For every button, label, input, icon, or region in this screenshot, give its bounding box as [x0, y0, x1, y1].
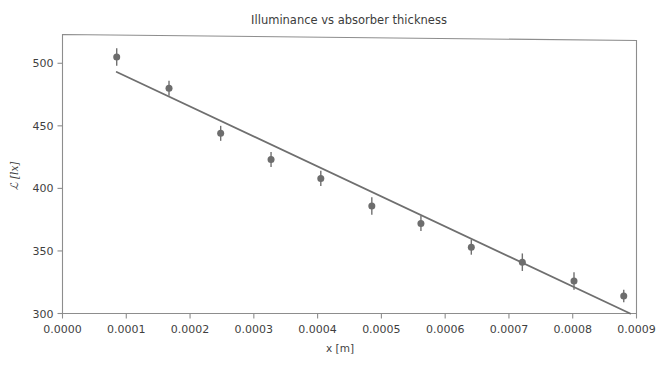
y-tick-label: 450 [33, 120, 54, 133]
data-point-marker [317, 175, 324, 182]
illuminance-scatter-chart: Illuminance vs absorber thickness 300350… [0, 0, 658, 371]
data-point-marker [166, 85, 173, 92]
x-tick-label: 0.0004 [298, 323, 337, 336]
x-tick-label: 0.0005 [362, 323, 401, 336]
figure-background [0, 0, 658, 371]
x-tick-label: 0.0008 [553, 323, 592, 336]
x-tick-label: 0.0003 [235, 323, 274, 336]
data-point-marker [268, 156, 275, 163]
chart-title: Illuminance vs absorber thickness [251, 13, 447, 27]
y-axis-label: ℒ [lx] [8, 161, 20, 191]
y-tick-label: 350 [33, 245, 54, 258]
data-point-marker [217, 130, 224, 137]
data-point-marker [570, 277, 577, 284]
data-point-marker [468, 244, 475, 251]
x-tick-label: 0.0002 [171, 323, 210, 336]
y-tick-label: 400 [33, 182, 54, 195]
x-axis-label: x [m] [326, 342, 354, 354]
data-point-marker [417, 220, 424, 227]
x-tick-label: 0.0009 [617, 323, 656, 336]
x-tick-label: 0.0001 [107, 323, 146, 336]
data-point-marker [620, 292, 627, 299]
data-point-marker [368, 202, 375, 209]
x-tick-label: 0.0007 [490, 323, 529, 336]
chart-figure: Illuminance vs absorber thickness 300350… [0, 0, 658, 371]
y-tick-label: 500 [33, 57, 54, 70]
data-point-marker [519, 259, 526, 266]
y-tick-label: 300 [33, 308, 54, 321]
x-tick-label: 0.0000 [43, 323, 82, 336]
x-tick-label: 0.0006 [426, 323, 465, 336]
data-point-marker [113, 54, 120, 61]
